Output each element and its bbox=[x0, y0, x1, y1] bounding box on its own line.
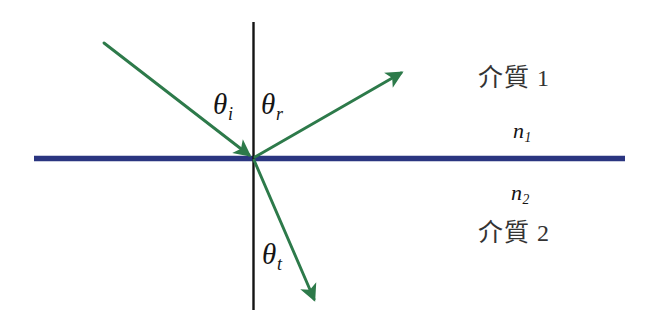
theta-incident-subscript: i bbox=[228, 104, 233, 124]
medium-lower-number: 2 bbox=[537, 220, 550, 246]
medium-lower-name: 介質 bbox=[478, 218, 530, 247]
theta-reflected-symbol: θ bbox=[261, 88, 275, 120]
transmitted-ray-arrow bbox=[254, 160, 314, 299]
diagram-canvas bbox=[0, 0, 657, 329]
medium-upper-label: 介質1 bbox=[478, 65, 550, 90]
angle-of-incidence-label: θi bbox=[213, 90, 232, 119]
optics-diagram: θi θr θt n1 n2 介質1 介質2 bbox=[0, 0, 657, 329]
n2-symbol: n bbox=[511, 180, 522, 205]
medium-lower-label: 介質2 bbox=[478, 220, 550, 245]
angle-of-reflection-label: θr bbox=[261, 90, 282, 119]
refractive-index-lower-label: n2 bbox=[511, 182, 529, 204]
medium-upper-name: 介質 bbox=[478, 63, 530, 92]
angle-of-transmission-label: θt bbox=[262, 240, 281, 269]
theta-reflected-subscript: r bbox=[276, 104, 283, 124]
medium-upper-number: 1 bbox=[537, 65, 550, 91]
theta-incident-symbol: θ bbox=[213, 88, 227, 120]
n1-symbol: n bbox=[513, 118, 524, 143]
n1-subscript: 1 bbox=[525, 130, 532, 145]
theta-transmitted-subscript: t bbox=[277, 254, 282, 274]
n2-subscript: 2 bbox=[523, 192, 530, 207]
refractive-index-upper-label: n1 bbox=[513, 120, 531, 142]
theta-transmitted-symbol: θ bbox=[262, 238, 276, 270]
